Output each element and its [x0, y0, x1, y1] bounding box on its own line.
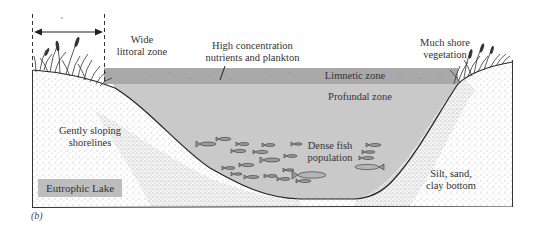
- profundal-zone-label: Profundal zone: [310, 91, 410, 103]
- fish-population-label: Dense fish population: [300, 140, 360, 164]
- bottom-label: Silt, sand, clay bottom: [416, 168, 486, 192]
- nutrients-label: High concentration nutrients and plankto…: [190, 40, 315, 64]
- shore-vegetation-label: Much shore vegetation: [405, 37, 485, 61]
- arrow-left-icon: [34, 29, 42, 36]
- arrow-right-icon: [95, 29, 103, 36]
- lake-type-legend-label: Eutrophic Lake: [38, 182, 122, 194]
- figure-caption: (b): [31, 210, 43, 221]
- limnetic-zone-label: Limnetic zone: [310, 70, 400, 82]
- shorelines-label: Gently sloping shorelines: [50, 125, 130, 149]
- littoral-zone-label: Wide littoral zone: [108, 34, 176, 58]
